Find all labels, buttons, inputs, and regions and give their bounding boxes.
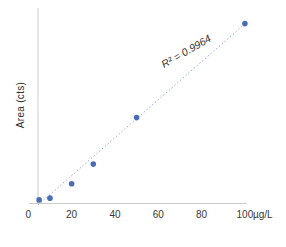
x-axis-unit-label: µg/L: [253, 209, 273, 220]
data-point: [36, 197, 42, 203]
data-point: [134, 115, 140, 121]
x-tick-label: 0: [13, 209, 43, 220]
data-point: [242, 21, 248, 27]
data-point: [69, 181, 75, 187]
calibration-chart: Area (cts) R² = 0.9964 020406080100 µg/L: [0, 0, 286, 247]
data-point: [90, 161, 96, 167]
x-tick-label: 20: [57, 209, 87, 220]
x-tick-label: 40: [100, 209, 130, 220]
data-point: [47, 195, 53, 201]
trendline: [38, 22, 247, 205]
x-tick-label: 60: [143, 209, 173, 220]
x-tick-label: 80: [187, 209, 217, 220]
y-axis-label: Area (cts): [15, 82, 26, 128]
